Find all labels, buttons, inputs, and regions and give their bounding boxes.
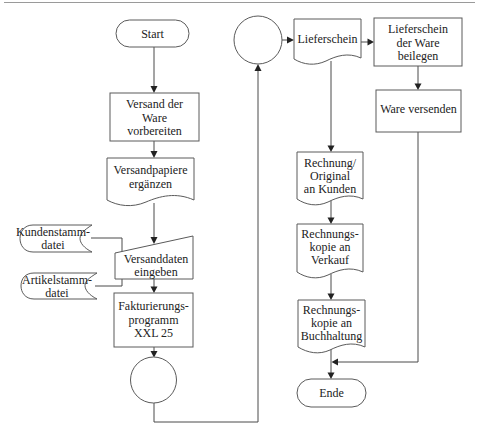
node-article-file-line-1: Artikelstamm-: [22, 273, 92, 287]
node-invoice-original-line-1: Rechnung/: [304, 156, 357, 170]
node-connector-top: [234, 16, 282, 64]
node-ship: Ware versenden: [376, 90, 461, 132]
node-attach-note: Lieferschein der Ware beilegen: [374, 18, 462, 66]
node-invoice-original-line-3: an Kunden: [304, 182, 356, 196]
node-prepare-line-3: vorbereiten: [127, 124, 182, 138]
arrow-head-icon: [287, 37, 294, 44]
node-delivery-note: Lieferschein: [294, 19, 361, 64]
arrow-head-icon: [151, 237, 158, 244]
arrow-head-icon: [368, 39, 375, 46]
node-invoice-accounting-line-1: Rechnungs-: [303, 303, 360, 317]
arrow-head-icon: [415, 84, 422, 91]
node-customer-file-line-1: Kundenstamm-: [16, 225, 90, 239]
arrow-head-icon: [328, 218, 335, 225]
node-attach-note-line-3: beilegen: [398, 49, 439, 63]
node-prepare-line-1: Versand der: [126, 97, 183, 111]
node-papers-line-2: ergänzen: [129, 177, 172, 191]
node-prepare: Versand der Ware vorbereiten: [110, 93, 199, 141]
node-invoice-sales: Rechnungs- kopie an Verkauf: [297, 224, 363, 278]
node-input-line-2: eingeben: [134, 265, 177, 279]
node-billing-line-3: XXL 25: [134, 326, 173, 340]
arrow-head-icon: [332, 359, 339, 366]
node-attach-note-line-2: der Ware: [396, 36, 439, 50]
node-delivery-note-label: Lieferschein: [298, 32, 358, 46]
node-papers: Versandpapiere ergänzen: [107, 158, 194, 206]
arrow-head-icon: [151, 86, 158, 93]
node-start: Start: [116, 20, 189, 47]
node-ship-label: Ware versenden: [380, 102, 457, 116]
node-customer-file-line-2: datei: [41, 238, 65, 252]
node-billing-line-1: Fakturierungs-: [118, 299, 189, 313]
node-invoice-accounting-line-3: Buchhaltung: [301, 329, 362, 343]
node-prepare-line-2: Ware: [142, 111, 167, 125]
node-connector-bottom: [131, 357, 177, 403]
node-invoice-accounting: Rechnungs- kopie an Buchhaltung: [298, 300, 365, 353]
node-invoice-original: Rechnung/ Original an Kunden: [297, 152, 363, 205]
edge-customer-input: [91, 238, 122, 253]
node-invoice-accounting-line-2: kopie an: [311, 316, 352, 330]
node-end-label: Ende: [319, 386, 344, 400]
node-end: Ende: [297, 379, 366, 407]
arrow-head-icon: [151, 151, 158, 158]
node-invoice-sales-line-1: Rechnungs-: [301, 227, 358, 241]
node-input-line-1: Versanddaten: [124, 252, 189, 266]
node-invoice-original-line-2: Original: [310, 169, 351, 183]
arrow-head-icon: [151, 287, 158, 294]
arrow-head-icon: [255, 64, 262, 71]
node-invoice-sales-line-3: Verkauf: [311, 253, 349, 267]
arrow-head-icon: [328, 373, 335, 380]
node-papers-line-1: Versandpapiere: [114, 163, 188, 177]
node-start-label: Start: [141, 27, 164, 41]
flowchart-canvas: Start Versand der Ware vorbereiten Versa…: [0, 0, 477, 440]
node-attach-note-line-1: Lieferschein: [388, 22, 448, 36]
node-customer-file: Kundenstamm- datei: [16, 225, 92, 252]
node-article-file: Artikelstamm- datei: [21, 273, 97, 300]
node-billing: Fakturierungs- programm XXL 25: [114, 293, 193, 347]
node-billing-line-2: programm: [129, 313, 180, 327]
node-article-file-line-2: datei: [45, 286, 69, 300]
edge-article-input: [95, 279, 122, 286]
arrow-head-icon: [328, 146, 335, 153]
arrow-head-icon: [328, 294, 335, 301]
node-invoice-sales-line-2: kopie an: [310, 240, 351, 254]
